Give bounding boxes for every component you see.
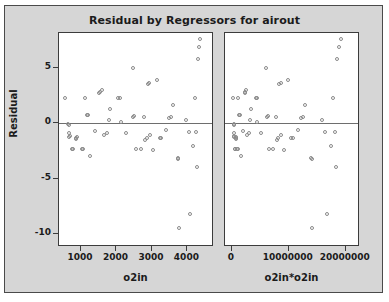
data-point xyxy=(63,96,67,100)
x-tick-mark xyxy=(115,246,116,251)
data-point xyxy=(67,123,71,127)
data-point xyxy=(236,96,240,100)
data-point xyxy=(169,115,173,119)
data-point xyxy=(320,118,324,122)
data-point xyxy=(266,114,270,118)
data-point xyxy=(139,147,143,151)
x-tick-label: 10000000 xyxy=(263,252,313,262)
data-point xyxy=(239,154,243,158)
data-point xyxy=(334,165,338,169)
data-point xyxy=(177,226,181,230)
data-point xyxy=(118,96,122,100)
x-tick-label: 2000 xyxy=(103,252,128,262)
data-point xyxy=(155,78,159,82)
x-tick-mark xyxy=(288,246,289,251)
data-point xyxy=(107,118,111,122)
data-point xyxy=(259,131,263,135)
data-point xyxy=(164,128,168,132)
data-point xyxy=(191,144,195,148)
data-point xyxy=(105,131,109,135)
x-axis-title: o2in xyxy=(123,272,147,283)
data-point xyxy=(337,45,341,49)
x-tick-mark xyxy=(345,246,346,251)
data-point xyxy=(335,57,339,61)
data-point xyxy=(236,147,240,151)
data-point xyxy=(231,96,235,100)
data-point xyxy=(147,81,151,85)
data-point xyxy=(86,113,90,117)
data-point xyxy=(255,96,259,100)
y-tick-label: -10 xyxy=(11,227,51,237)
chart-root: Residual by Regressors for airout Residu… xyxy=(0,0,389,302)
data-point xyxy=(184,118,188,122)
y-tick-label: 0 xyxy=(11,116,51,126)
data-point xyxy=(195,165,199,169)
data-point xyxy=(187,130,191,134)
data-point xyxy=(329,144,333,148)
y-tick-label: 5 xyxy=(11,61,51,71)
data-point xyxy=(279,133,283,137)
data-point xyxy=(83,96,87,100)
zero-reference-line xyxy=(59,123,212,124)
x-tick-label: 1000 xyxy=(67,252,92,262)
data-point xyxy=(194,130,198,134)
data-point xyxy=(198,37,202,41)
data-point xyxy=(333,130,337,134)
data-point xyxy=(325,212,329,216)
data-point xyxy=(247,131,251,135)
data-point xyxy=(71,147,75,151)
data-point xyxy=(75,135,79,139)
data-point xyxy=(238,113,242,117)
data-point xyxy=(148,133,152,137)
x-tick-mark xyxy=(186,246,187,251)
data-point xyxy=(296,128,300,132)
data-point xyxy=(108,107,112,111)
data-point xyxy=(264,66,268,70)
data-point xyxy=(159,136,163,140)
data-point xyxy=(249,107,253,111)
data-point xyxy=(331,96,335,100)
data-point xyxy=(282,148,286,152)
x-tick-label: 20000000 xyxy=(320,252,370,262)
x-tick-label: 3000 xyxy=(138,252,163,262)
data-point xyxy=(93,129,97,133)
data-point xyxy=(81,147,85,151)
data-point xyxy=(132,114,136,118)
data-point xyxy=(303,103,307,107)
data-point xyxy=(176,157,180,161)
data-point xyxy=(196,57,200,61)
x-tick-label: 4000 xyxy=(174,252,199,262)
data-point xyxy=(100,88,104,92)
data-point xyxy=(241,129,245,133)
scatter-panel-o2in-squared xyxy=(224,32,359,246)
data-point xyxy=(171,103,175,107)
data-point xyxy=(197,45,201,49)
y-axis-title: Residual xyxy=(8,84,19,144)
data-point xyxy=(301,115,305,119)
data-point xyxy=(134,147,138,151)
scatter-panel-o2in xyxy=(58,32,213,246)
data-point xyxy=(131,66,135,70)
data-point xyxy=(244,88,248,92)
x-tick-mark xyxy=(231,246,232,251)
data-point xyxy=(271,147,275,151)
data-point xyxy=(310,226,314,230)
data-point xyxy=(339,37,343,41)
data-point xyxy=(88,154,92,158)
data-point xyxy=(188,212,192,216)
data-point xyxy=(286,78,290,82)
data-point xyxy=(68,134,72,138)
data-point xyxy=(193,96,197,100)
y-tick-label: -5 xyxy=(11,172,51,182)
x-tick-label: 0 xyxy=(228,252,234,262)
data-point xyxy=(151,148,155,152)
x-axis-title: o2in*o2in xyxy=(265,272,319,283)
data-point xyxy=(232,123,236,127)
x-tick-mark xyxy=(80,246,81,251)
data-point xyxy=(323,130,327,134)
data-point xyxy=(310,157,314,161)
chart-title: Residual by Regressors for airout xyxy=(0,14,389,27)
data-point xyxy=(142,115,146,119)
zero-reference-line xyxy=(225,123,358,124)
data-point xyxy=(274,115,278,119)
